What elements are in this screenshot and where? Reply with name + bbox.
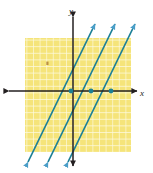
y-axis-label: y (68, 6, 73, 16)
grid-speck (46, 62, 48, 65)
intercept-dot-1 (69, 89, 74, 94)
x-axis-label: x (139, 88, 144, 98)
intercept-dot-3 (109, 89, 114, 94)
figure-container: y x (0, 0, 153, 173)
intercept-dot-2 (89, 89, 94, 94)
coordinate-plane-svg: y x (0, 0, 153, 173)
